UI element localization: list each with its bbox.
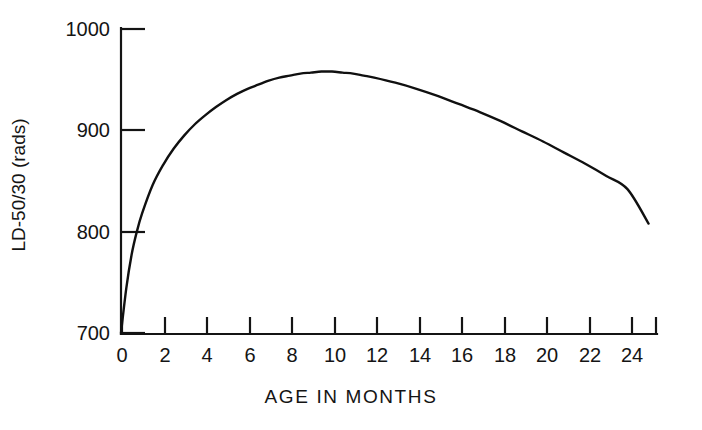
x-axis-title: AGE IN MONTHS bbox=[0, 386, 702, 408]
x-tick-label-22: 22 bbox=[579, 344, 601, 367]
y-tick-label-900: 900 bbox=[48, 119, 110, 142]
y-tick-label-1000: 1000 bbox=[48, 18, 110, 41]
y-tick-label-800: 800 bbox=[48, 221, 110, 244]
y-axis-title: LD-50/30 (rads) bbox=[8, 118, 30, 251]
x-tick-label-14: 14 bbox=[409, 344, 431, 367]
y-axis-ticks bbox=[121, 29, 145, 333]
x-tick-label-4: 4 bbox=[201, 344, 212, 367]
x-axis-ticks bbox=[122, 317, 656, 334]
x-tick-label-6: 6 bbox=[244, 344, 255, 367]
x-tick-label-0: 0 bbox=[116, 344, 127, 367]
data-series-line bbox=[121, 71, 649, 333]
y-tick-label-700: 700 bbox=[48, 322, 110, 345]
x-tick-label-18: 18 bbox=[494, 344, 516, 367]
x-tick-label-2: 2 bbox=[159, 344, 170, 367]
x-tick-label-10: 10 bbox=[324, 344, 346, 367]
x-tick-label-24: 24 bbox=[621, 344, 643, 367]
x-tick-label-12: 12 bbox=[366, 344, 388, 367]
x-tick-label-8: 8 bbox=[286, 344, 297, 367]
chart-figure: 1000 900 800 700 0 2 4 6 8 10 12 14 16 1… bbox=[0, 0, 702, 430]
x-tick-label-16: 16 bbox=[451, 344, 473, 367]
x-tick-label-20: 20 bbox=[536, 344, 558, 367]
